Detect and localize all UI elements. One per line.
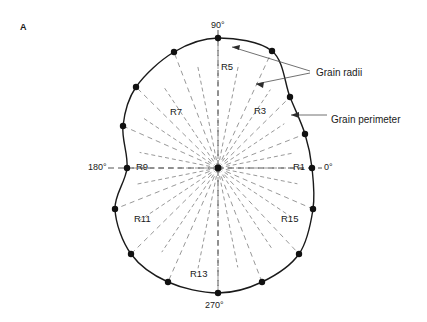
vertex-dot-r2 — [302, 131, 308, 137]
vertex-dot-r12 — [165, 279, 171, 285]
vertex-dot-r1 — [309, 165, 315, 171]
vertex-dot-r8 — [120, 123, 126, 129]
radius-label-r3: R3 — [254, 106, 266, 116]
vertex-dot-r16 — [310, 206, 316, 212]
sub-spoke — [162, 175, 214, 252]
radius-label-r9: R9 — [136, 162, 148, 172]
radius-line-r15 — [218, 168, 299, 254]
annotation-grain-radii: Grain radii — [316, 68, 362, 78]
vertex-dot-r3 — [287, 94, 293, 100]
sub-spoke — [198, 176, 216, 268]
leader-radii-lower — [256, 73, 310, 84]
annotation-grain-perimeter: Grain perimeter — [331, 115, 400, 125]
vertex-dot-r9 — [124, 165, 130, 171]
center-point — [215, 165, 222, 172]
angle-label-270: 270° — [205, 301, 224, 310]
radius-label-r7: R7 — [170, 107, 182, 117]
vertex-dot-r6 — [171, 49, 177, 55]
radius-line-r11 — [131, 168, 218, 254]
angle-label-90: 90° — [211, 21, 225, 30]
sub-spoke — [225, 124, 285, 164]
sub-spoke — [226, 153, 294, 166]
arrowhead-perimeter — [291, 112, 299, 118]
sub-spoke — [143, 118, 211, 163]
radius-line-r14 — [218, 168, 262, 282]
radius-line-r7 — [136, 87, 218, 168]
angle-label-180: 180° — [88, 163, 107, 172]
vertex-dot-r11 — [128, 251, 134, 257]
grain-diagram — [0, 0, 427, 322]
radius-label-r5: R5 — [221, 62, 233, 72]
sub-spoke — [222, 175, 272, 250]
sub-spoke — [163, 86, 213, 161]
sub-spoke — [220, 64, 239, 160]
radius-line-r16 — [218, 168, 313, 209]
panel-label-a: A — [20, 22, 27, 32]
vertex-dot-r13 — [215, 290, 221, 296]
sub-spoke — [226, 170, 298, 184]
arrowhead-radii-upper — [232, 45, 240, 50]
vertex-dot-r15 — [296, 251, 302, 257]
vertex-dot-r10 — [112, 206, 118, 212]
vertex-dot-r14 — [259, 279, 265, 285]
radius-label-r11: R11 — [134, 214, 151, 224]
sub-spoke — [198, 66, 217, 160]
annotation-leaders — [232, 47, 327, 115]
radius-label-r1: R1 — [293, 162, 305, 172]
vertex-dot-r4 — [269, 48, 275, 54]
sub-spoke — [220, 176, 238, 268]
angle-label-0: 0° — [324, 163, 333, 172]
vertex-dot-r5 — [215, 35, 221, 41]
vertex-dot-r7 — [133, 84, 139, 90]
radius-label-r13: R13 — [190, 269, 207, 279]
radius-label-r15: R15 — [281, 214, 298, 224]
